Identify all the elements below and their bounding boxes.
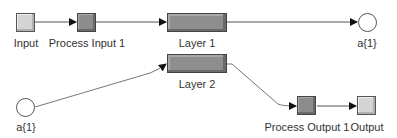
layer-1-block[interactable] [167, 13, 227, 32]
input-block[interactable] [16, 13, 35, 32]
layer-output-a1-label: a{1} [357, 37, 377, 49]
layer-input-a1-label: a{1} [16, 121, 36, 133]
layer-1-label: Layer 1 [179, 37, 216, 49]
process-input-label: Process Input 1 [49, 37, 125, 49]
layer-2-block[interactable] [167, 54, 227, 73]
process-input-block[interactable] [77, 13, 96, 32]
process-output-label: Process Output 1 [265, 121, 350, 133]
output-label: Output [350, 121, 383, 133]
process-output-block[interactable] [297, 96, 316, 115]
edge-a1-to-layer2 [35, 64, 166, 107]
layer-output-a1-node[interactable] [358, 13, 377, 32]
layer-input-a1-node[interactable] [16, 98, 35, 117]
layer-2-label: Layer 2 [179, 78, 216, 90]
output-block[interactable] [357, 96, 376, 115]
edge-layer2-to-process-output [227, 64, 296, 106]
neural-network-diagram: Input Process Input 1 Layer 1 a{1} Layer… [0, 0, 397, 138]
input-label: Input [14, 37, 38, 49]
